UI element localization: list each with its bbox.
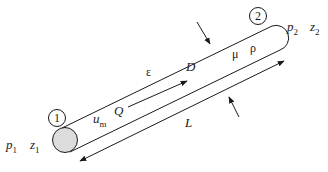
diameter-arrow-top xyxy=(197,22,210,44)
pipe-inlet-end xyxy=(53,128,78,153)
station-1-label: 1 xyxy=(48,112,66,124)
station-2-label: 2 xyxy=(249,10,267,22)
inlet-elevation-label: z1 xyxy=(30,138,40,155)
pipe-diagram xyxy=(0,0,328,172)
diameter-label: D xyxy=(186,60,195,73)
length-label: L xyxy=(185,116,192,129)
inlet-pressure-label: p1 xyxy=(6,138,17,155)
flow-rate-label: Q xyxy=(114,104,123,117)
outlet-elevation-label: z2 xyxy=(310,20,320,37)
velocity-label: um xyxy=(93,112,107,129)
flow-arrow xyxy=(128,81,187,107)
outlet-pressure-label: p2 xyxy=(287,20,298,37)
viscosity-label: μ xyxy=(232,48,238,60)
density-label: ρ xyxy=(250,42,256,54)
length-dimension-arrow xyxy=(80,61,284,161)
diameter-arrow-bottom xyxy=(229,97,239,117)
pipe-bottom-wall xyxy=(70,50,280,152)
roughness-label: ε xyxy=(146,66,151,78)
